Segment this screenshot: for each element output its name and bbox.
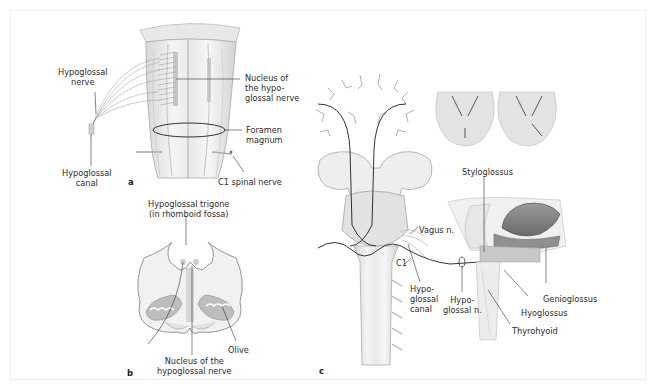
panel-a-brainstem bbox=[89, 23, 244, 178]
panel-letter-b: b bbox=[127, 368, 133, 378]
label-c1: C1 bbox=[396, 258, 407, 268]
label-vagus: Vagus n. bbox=[419, 225, 454, 235]
label-line: canal bbox=[62, 178, 112, 188]
panel-letter-c: c bbox=[319, 366, 324, 376]
label-hyoglossus: Hyoglossus bbox=[521, 308, 567, 318]
label-line: Hypoglossal bbox=[62, 168, 112, 178]
label-nucleus-b: Nucleus of the hypoglossal nerve bbox=[157, 356, 232, 376]
label-thyrohyoid: Thyrohyoid bbox=[512, 326, 558, 336]
label-line: glossal nerve bbox=[245, 93, 299, 103]
label-c1-spinal-nerve: C1 spinal nerve bbox=[218, 177, 282, 187]
label-line: Hypo- bbox=[410, 284, 438, 294]
panel-b-medulla-section bbox=[138, 216, 243, 355]
label-hypoglossal-canal-a: Hypoglossal canal bbox=[62, 168, 112, 188]
label-styloglossus: Styloglossus bbox=[462, 167, 513, 177]
label-line: glossal n. bbox=[443, 305, 482, 315]
label-line: the hypo- bbox=[245, 83, 299, 93]
label-genioglossus: Genioglossus bbox=[543, 294, 597, 304]
label-hypoglossal-canal-c: Hypo- glossal canal bbox=[410, 284, 438, 314]
label-line: Nucleus of bbox=[245, 73, 299, 83]
panel-letter-a: a bbox=[128, 177, 134, 187]
label-foramen-magnum: Foramen magnum bbox=[246, 125, 283, 145]
label-line: Foramen bbox=[246, 125, 283, 135]
label-hypoglossal-nerve-a: Hypoglossal nerve bbox=[58, 67, 108, 87]
tongue-movement-diagrams bbox=[436, 92, 557, 146]
label-nucleus-a: Nucleus of the hypo- glossal nerve bbox=[245, 73, 299, 103]
label-olive: Olive bbox=[228, 345, 249, 355]
label-line: Nucleus of the bbox=[157, 356, 232, 366]
label-line: (in rhomboid fossa) bbox=[148, 209, 229, 219]
label-line: hypoglossal nerve bbox=[157, 366, 232, 376]
label-line: glossal bbox=[410, 294, 438, 304]
label-line: nerve bbox=[58, 77, 108, 87]
label-line: Hypoglossal bbox=[58, 67, 108, 77]
label-line: Hypo- bbox=[443, 295, 482, 305]
label-line: magnum bbox=[246, 135, 283, 145]
label-hypoglossal-trigone: Hypoglossal trigone (in rhomboid fossa) bbox=[148, 199, 229, 219]
label-hypoglossal-n: Hypo- glossal n. bbox=[443, 295, 482, 315]
label-line: canal bbox=[410, 304, 438, 314]
panel-c-pathway bbox=[316, 74, 566, 365]
label-line: Hypoglossal trigone bbox=[148, 199, 229, 209]
